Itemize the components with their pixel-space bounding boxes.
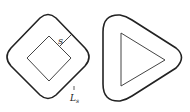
offset-label: s	[58, 35, 63, 46]
left-figure: s Ls	[7, 15, 89, 105]
left-inner-square	[27, 36, 71, 81]
left-offset-boundary	[7, 15, 89, 99]
diagram-canvas: s Ls	[0, 0, 190, 112]
boundary-label: Ls	[69, 93, 79, 104]
right-inner-triangle	[121, 33, 165, 86]
right-figure	[103, 15, 182, 101]
right-offset-boundary	[103, 15, 182, 101]
